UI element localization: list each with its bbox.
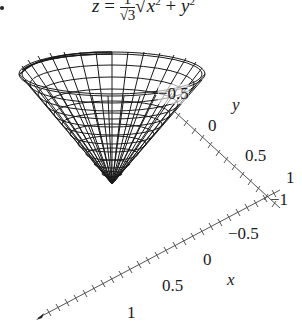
y-axis-label: y: [232, 95, 240, 115]
x-tick-neg-1: −1: [270, 190, 288, 210]
x-axis-arrowhead: [36, 313, 44, 320]
cone-plot: [0, 0, 302, 334]
x-tick-0: 0: [203, 250, 212, 270]
x-tick-0.5: 0.5: [162, 276, 183, 296]
y-tick-neg-0.5: −0.5: [158, 84, 189, 104]
y-tick-0.5: 0.5: [245, 146, 266, 166]
y-tick-0: 0: [208, 116, 217, 136]
x-tick-1: 1: [127, 303, 136, 323]
x-tick-neg-0.5: −0.5: [228, 224, 259, 244]
x-axis-label: x: [227, 270, 235, 290]
x-axis-line: [38, 190, 280, 318]
y-tick-1: 1: [286, 168, 295, 188]
